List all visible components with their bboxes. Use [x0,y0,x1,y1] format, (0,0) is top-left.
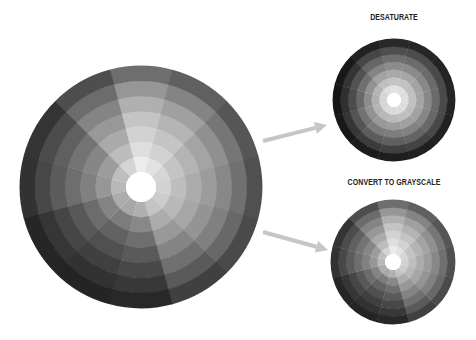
wheel-segment [423,90,432,110]
arrow-head-icon [315,241,328,253]
wheel-segment [430,250,439,275]
wheel-segment [361,254,370,270]
wheel-segment [384,129,404,138]
arrow-shaft [263,232,316,247]
original-grayscale-wheel [20,66,263,309]
wheel-segment [214,163,232,211]
wheel-segment [80,171,97,203]
wheel-segment [416,92,425,108]
wheel-segment [121,111,161,129]
wheel-segment [383,292,404,301]
wheel-segment [199,167,217,207]
wheel-segment [117,96,165,114]
wheel-segment [125,231,157,248]
arrow-to-grayscale-icon [263,232,328,253]
wheel-segment [346,250,355,275]
wheel-segment [117,260,165,278]
wheel-segment [185,171,202,203]
grayscale-wheel [331,200,456,325]
wheel-center-hole [385,254,401,270]
diagram-canvas [0,0,476,340]
wheel-segment [383,223,404,232]
wheel-segment [382,137,406,146]
desaturate-wheel [333,39,456,162]
desaturate-label: DESATURATE [347,12,441,22]
wheel-segment [386,69,402,78]
wheel-segment [363,92,372,108]
wheel-segment [348,88,357,112]
wheel-segment [50,163,68,211]
wheel-segment [416,254,425,270]
wheel-center-hole [126,172,156,202]
wheel-segment [385,230,401,239]
arrow-to-desaturate-icon [263,122,327,141]
wheel-segment [381,215,406,224]
wheel-segment [384,62,404,71]
wheel-segment [121,245,161,263]
wheel-segment [125,126,157,143]
wheel-segment [386,122,402,131]
wheel-segment [381,299,406,308]
convert-to-grayscale-label: CONVERT TO GRAYSCALE [347,177,441,187]
wheel-segment [382,54,406,63]
wheel-segment [65,167,83,207]
wheel-segment [385,285,401,294]
wheel-segment [423,252,432,273]
wheel-segment [354,252,363,273]
wheel-segment [431,88,440,112]
wheel-center-hole [387,93,401,107]
arrow-shaft [263,128,315,141]
wheel-segment [356,90,365,110]
arrow-head-icon [314,122,327,134]
